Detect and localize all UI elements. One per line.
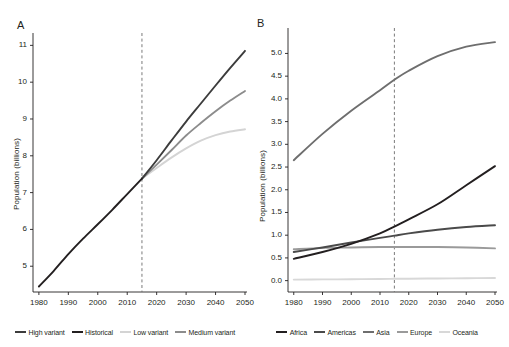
legend-label: Europe xyxy=(410,329,432,336)
y-tick-label: 3.0 xyxy=(256,139,282,148)
legend-label: Historical xyxy=(85,329,113,336)
x-tick-label: 2030 xyxy=(172,298,200,307)
legend-item[interactable]: Americas xyxy=(314,329,356,336)
legend-line-icon xyxy=(120,331,131,333)
legend-item[interactable]: Medium variant xyxy=(175,329,235,336)
x-tick-label: 1990 xyxy=(54,298,82,307)
legend-item[interactable]: High variant xyxy=(15,329,65,336)
legend-item[interactable]: Oceania xyxy=(439,329,478,336)
legend-label: Americas xyxy=(327,329,355,336)
y-tick-label: 0.0 xyxy=(256,276,282,285)
panel-b: B Population (billions) AfricaAmericasAs… xyxy=(252,0,502,347)
x-tick-label: 2020 xyxy=(143,298,171,307)
x-tick-label: 1990 xyxy=(309,298,337,307)
x-tick-label: 2010 xyxy=(366,298,394,307)
x-tick-label: 2040 xyxy=(202,298,230,307)
x-tick-label: 1980 xyxy=(25,298,53,307)
legend-label: Oceania xyxy=(453,329,478,336)
y-tick-label: 4.5 xyxy=(256,71,282,80)
x-tick-label: 2020 xyxy=(395,298,423,307)
legend-label: Medium variant xyxy=(189,329,235,336)
legend-item[interactable]: Asia xyxy=(363,329,390,336)
y-tick-label: 2.5 xyxy=(256,162,282,171)
legend-item[interactable]: Africa xyxy=(276,329,307,336)
panel-a: A Population (billions) High variantHist… xyxy=(0,0,250,347)
y-tick-label: 0.5 xyxy=(256,253,282,262)
x-tick-label: 2010 xyxy=(113,298,141,307)
y-tick-label: 9 xyxy=(1,114,27,123)
y-tick-label: 5 xyxy=(1,261,27,270)
legend-label: Asia xyxy=(376,329,389,336)
panel-a-plot xyxy=(0,0,250,347)
legend-line-icon xyxy=(175,331,186,333)
legend-line-icon xyxy=(314,331,325,333)
legend-label: High variant xyxy=(28,329,64,336)
legend-item[interactable]: Low variant xyxy=(120,329,168,336)
y-tick-label: 5.0 xyxy=(256,48,282,57)
y-tick-label: 8 xyxy=(1,151,27,160)
y-tick-label: 2.0 xyxy=(256,185,282,194)
legend-line-icon xyxy=(276,331,287,333)
x-tick-label: 1980 xyxy=(280,298,308,307)
y-tick-label: 4.0 xyxy=(256,94,282,103)
y-tick-label: 3.5 xyxy=(256,117,282,126)
panel-b-plot xyxy=(252,0,502,347)
legend-line-icon xyxy=(72,331,83,333)
legend-line-icon xyxy=(15,331,26,333)
y-tick-label: 11 xyxy=(1,40,27,49)
x-tick-label: 2000 xyxy=(84,298,112,307)
legend-label: Low variant xyxy=(133,329,168,336)
legend-label: Africa xyxy=(290,329,307,336)
x-tick-label: 2050 xyxy=(481,298,509,307)
y-tick-label: 10 xyxy=(1,77,27,86)
legend-item[interactable]: Europe xyxy=(397,329,432,336)
x-tick-label: 2000 xyxy=(337,298,365,307)
legend-line-icon xyxy=(363,331,374,333)
x-tick-label: 2030 xyxy=(424,298,452,307)
y-tick-label: 1.0 xyxy=(256,230,282,239)
legend-item[interactable]: Historical xyxy=(72,329,113,336)
legend-line-icon xyxy=(439,331,450,333)
panel-a-legend: High variantHistoricalLow variantMedium … xyxy=(0,326,250,338)
y-tick-label: 1.5 xyxy=(256,207,282,216)
legend-line-icon xyxy=(397,331,408,333)
y-tick-label: 7 xyxy=(1,188,27,197)
y-tick-label: 6 xyxy=(1,224,27,233)
panel-b-legend: AfricaAmericasAsiaEuropeOceania xyxy=(252,326,502,338)
x-tick-label: 2040 xyxy=(452,298,480,307)
